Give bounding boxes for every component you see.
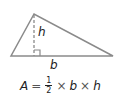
triangle-shape [11,14,113,56]
formula-area-var: A [20,80,28,92]
base-label: b [50,59,58,71]
height-label: h [38,26,46,38]
formula-fraction: 1 2 [45,76,52,95]
formula-times-2: × [80,80,90,92]
right-angle-marker [34,50,40,56]
area-formula: A = 1 2 × b × h [20,76,101,95]
fraction-denominator: 2 [46,86,51,95]
formula-times-1: × [56,80,66,92]
triangle-area-diagram: h b A = 1 2 × b × h [0,0,118,99]
formula-height-var: h [93,80,101,92]
fraction-numerator: 1 [45,76,52,86]
formula-base-var: b [69,80,77,92]
formula-equals: = [31,80,41,92]
